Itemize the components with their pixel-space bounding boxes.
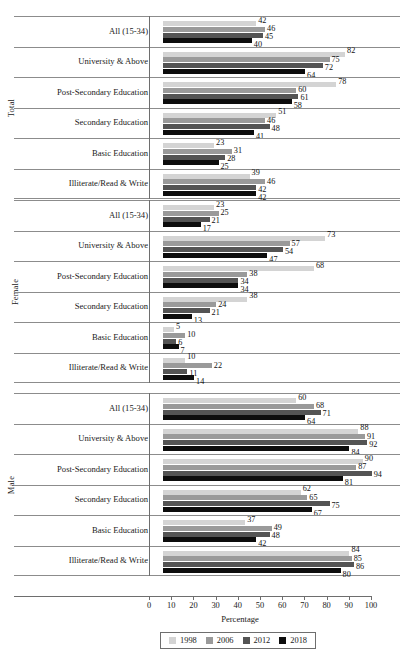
bar-group-2006: 46 bbox=[163, 27, 396, 32]
bar-group-2012: 45 bbox=[163, 33, 396, 38]
row-bars: 90879481 bbox=[163, 455, 396, 485]
x-tick-label: 0 bbox=[147, 601, 151, 610]
legend-label: 2012 bbox=[254, 636, 271, 645]
bar-2018 bbox=[163, 314, 192, 319]
chart-row: All (15-34)23252117 bbox=[14, 200, 400, 231]
row-bars: 23252117 bbox=[163, 201, 396, 231]
chart-row: Basic Education51067 bbox=[14, 322, 400, 353]
legend-item-1998[interactable]: 1998 bbox=[169, 636, 197, 645]
bar-2012 bbox=[163, 33, 263, 38]
bar-2012 bbox=[163, 440, 367, 445]
bar-value-label: 51 bbox=[276, 108, 286, 116]
bar-1998 bbox=[163, 174, 250, 179]
bar-group-2018: 7 bbox=[163, 344, 396, 349]
bar-1998 bbox=[163, 429, 358, 434]
bar-2006 bbox=[163, 526, 272, 531]
bar-value-label: 60 bbox=[296, 394, 306, 402]
bar-2018 bbox=[163, 537, 256, 542]
bar-1998 bbox=[163, 459, 363, 464]
bar-group-1998: 62 bbox=[163, 490, 396, 495]
chart-row: Illiterate/Read & Write39464242 bbox=[14, 169, 400, 200]
bar-group-2012: 21 bbox=[163, 217, 396, 222]
bar-group-1998: 39 bbox=[163, 174, 396, 179]
bar-2006 bbox=[163, 556, 352, 561]
bar-1998 bbox=[163, 82, 336, 87]
chart-row: University & Above82757264 bbox=[14, 47, 400, 78]
bar-group-1998: 73 bbox=[163, 236, 396, 241]
bar-group-1998: 82 bbox=[163, 52, 396, 57]
bar-group-2018: 81 bbox=[163, 476, 396, 481]
row-bars: 62657567 bbox=[163, 486, 396, 516]
bar-group-1998: 23 bbox=[163, 205, 396, 210]
bar-value-label: 5 bbox=[174, 323, 180, 331]
row-bars: 78606158 bbox=[163, 78, 396, 108]
row-category-label: Illiterate/Read & Write bbox=[14, 179, 148, 188]
row-category-label: Secondary Education bbox=[14, 496, 148, 505]
bar-1998 bbox=[163, 520, 245, 525]
legend-item-2012[interactable]: 2012 bbox=[243, 636, 271, 645]
bar-2006 bbox=[163, 465, 356, 470]
legend-item-2018[interactable]: 2018 bbox=[279, 636, 307, 645]
row-bars: 51464841 bbox=[163, 109, 396, 139]
bar-value-label: 42 bbox=[256, 17, 266, 25]
bar-group-1998: 60 bbox=[163, 398, 396, 403]
row-bars: 39464242 bbox=[163, 170, 396, 199]
bar-group-2012: 42 bbox=[163, 185, 396, 190]
legend-swatch-icon bbox=[169, 637, 176, 644]
bar-group-2018: 58 bbox=[163, 99, 396, 104]
chart-row: Secondary Education38242113 bbox=[14, 292, 400, 323]
legend-label: 1998 bbox=[180, 636, 197, 645]
bar-group-2018: 13 bbox=[163, 314, 396, 319]
bar-1998 bbox=[163, 358, 185, 363]
bar-group-2012: 72 bbox=[163, 63, 396, 68]
zero-axis-line bbox=[149, 393, 150, 576]
bar-2012 bbox=[163, 94, 298, 99]
legend-label: 2006 bbox=[217, 636, 234, 645]
bar-group-2006: 91 bbox=[163, 434, 396, 439]
chart-row: University & Above73575447 bbox=[14, 231, 400, 262]
bar-2012 bbox=[163, 247, 283, 252]
row-bars: 42464540 bbox=[163, 17, 396, 47]
bar-group-2018: 64 bbox=[163, 415, 396, 420]
bar-2012 bbox=[163, 562, 354, 567]
row-bars: 88919284 bbox=[163, 425, 396, 455]
row-category-label: All (15-34) bbox=[14, 27, 148, 36]
bar-group-2006: 25 bbox=[163, 211, 396, 216]
bar-2006 bbox=[163, 363, 212, 368]
bar-value-label: 39 bbox=[250, 169, 260, 177]
x-tick bbox=[260, 596, 261, 600]
x-tick-label: 20 bbox=[189, 601, 197, 610]
panel-female: FemaleAll (15-34)23252117University & Ab… bbox=[0, 200, 400, 383]
bar-1998 bbox=[163, 551, 349, 556]
bar-2018 bbox=[163, 476, 343, 481]
bar-2012 bbox=[163, 339, 176, 344]
row-category-label: Basic Education bbox=[14, 149, 148, 158]
bar-2012 bbox=[163, 308, 210, 313]
bar-2018 bbox=[163, 375, 194, 380]
panel-rows: All (15-34)60687164University & Above889… bbox=[14, 393, 400, 576]
bar-2018 bbox=[163, 507, 312, 512]
bar-group-2018: 17 bbox=[163, 222, 396, 227]
row-category-label: Illiterate/Read & Write bbox=[14, 363, 148, 372]
row-category-label: Basic Education bbox=[14, 333, 148, 342]
bar-2012 bbox=[163, 124, 270, 129]
bar-2006 bbox=[163, 404, 314, 409]
bar-1998 bbox=[163, 490, 301, 495]
x-axis-title-text: Percentage bbox=[221, 614, 259, 624]
row-category-label: Post-Secondary Education bbox=[14, 272, 148, 281]
bar-group-2018: 41 bbox=[163, 130, 396, 135]
row-category-label: Secondary Education bbox=[14, 119, 148, 128]
x-tick-label: 80 bbox=[322, 601, 330, 610]
chart-row: University & Above88919284 bbox=[14, 424, 400, 455]
bar-1998 bbox=[163, 297, 247, 302]
bar-group-2018: 80 bbox=[163, 568, 396, 573]
x-tick-label: 40 bbox=[234, 601, 242, 610]
x-tick bbox=[171, 596, 172, 600]
bar-2018 bbox=[163, 38, 252, 43]
row-bars: 38242113 bbox=[163, 293, 396, 323]
bar-group-2006: 60 bbox=[163, 88, 396, 93]
x-tick bbox=[216, 596, 217, 600]
bar-1998 bbox=[163, 205, 214, 210]
bar-group-2006: 10 bbox=[163, 333, 396, 338]
legend-item-2006[interactable]: 2006 bbox=[206, 636, 234, 645]
